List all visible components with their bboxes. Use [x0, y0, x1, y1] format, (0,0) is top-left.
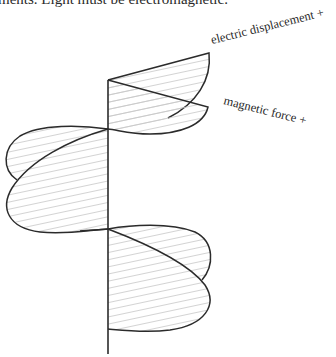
- em-wave-diagram: [0, 0, 336, 357]
